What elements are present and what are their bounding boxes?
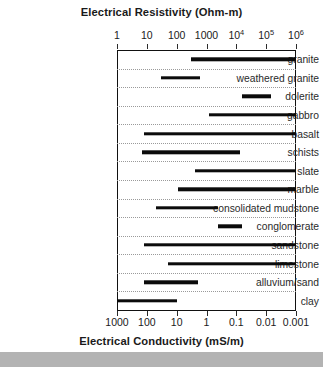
row-separator [117,161,296,162]
row-separator [117,273,296,274]
top-tick-mark [266,44,267,49]
bottom-axis-title: Electrical Conductivity (mS/m) [0,335,323,347]
bottom-tick-label: 0.01 [256,316,276,328]
range-bar [156,206,219,209]
chart-figure: Electrical Resistivity (Ohm-m) 110100100… [0,0,323,367]
top-tick-mark [236,44,237,49]
top-tick-label: 100 [168,29,186,41]
range-bar [161,76,200,79]
top-tick-label: 104 [228,29,244,41]
range-bar [218,225,241,228]
category-label: weathered granite [210,72,323,83]
category-label: clay [210,295,323,306]
range-bar [242,95,272,98]
range-bar [144,280,198,283]
top-tick-label: 105 [258,29,274,41]
top-tick-label: 1000 [195,29,218,41]
row-separator [117,291,296,292]
bottom-tick-label: 10 [171,316,183,328]
row-separator [117,124,296,125]
row-separator [117,236,296,237]
row-separator [117,180,296,181]
bottom-tick-label: 0.1 [229,316,244,328]
top-tick-mark [147,44,148,49]
footer-band [0,352,323,367]
top-tick-mark [117,44,118,49]
category-label: alluvium/sand [210,277,323,288]
range-bar [178,188,296,191]
category-label: consolidated mudstone [210,202,323,213]
range-bar [191,58,296,61]
top-tick-label: 1 [114,29,120,41]
range-bar [209,113,296,116]
top-tick-mark [177,44,178,49]
range-bar [117,299,177,302]
row-separator [117,217,296,218]
row-separator [117,87,296,88]
row-separator [117,69,296,70]
row-separator [117,254,296,255]
top-axis-title: Electrical Resistivity (Ohm-m) [0,6,323,18]
row-separator [117,143,296,144]
top-tick-mark [296,44,297,49]
bottom-tick-label: 0.001 [283,316,309,328]
row-separator [117,199,296,200]
row-separator [117,106,296,107]
range-bar [144,243,296,246]
top-tick-mark [207,44,208,49]
top-tick-label: 106 [288,29,304,41]
bottom-tick-label: 1000 [105,316,128,328]
top-tick-label: 10 [141,29,153,41]
bottom-tick-label: 100 [138,316,156,328]
range-bar [195,169,296,172]
range-bar [168,262,296,265]
range-bar [142,150,240,153]
range-bar [144,132,296,135]
bottom-tick-label: 1 [204,316,210,328]
